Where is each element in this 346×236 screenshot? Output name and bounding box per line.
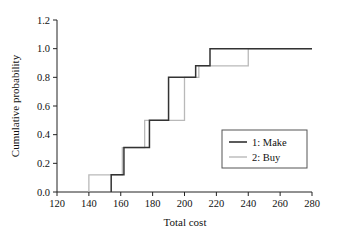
y-tick-label: 0.8 bbox=[37, 72, 50, 83]
y-tick-label: 0.6 bbox=[37, 101, 50, 112]
y-tick-label: 0.0 bbox=[37, 187, 50, 198]
legend-label-make: 1: Make bbox=[252, 137, 287, 148]
chart-legend: 1: Make 2: Buy bbox=[222, 130, 307, 168]
y-axis-title: Cumulative probability bbox=[9, 54, 21, 157]
chart-canvas: 120140160180200220240260280 0.00.20.40.6… bbox=[0, 0, 346, 236]
y-tick-label: 1.2 bbox=[37, 15, 50, 26]
y-tick-label: 1.0 bbox=[37, 43, 50, 54]
x-tick-label: 120 bbox=[49, 198, 65, 209]
axes-group: 120140160180200220240260280 0.00.20.40.6… bbox=[37, 15, 320, 209]
y-tick-label: 0.2 bbox=[37, 158, 50, 169]
x-tick-label: 160 bbox=[113, 198, 129, 209]
x-tick-label: 240 bbox=[240, 198, 256, 209]
series-line-make bbox=[111, 49, 312, 192]
y-axis-tick-labels: 0.00.20.40.60.81.01.2 bbox=[37, 15, 51, 198]
x-tick-label: 180 bbox=[145, 198, 161, 209]
x-axis-title: Total cost bbox=[164, 216, 207, 228]
x-tick-label: 280 bbox=[304, 198, 320, 209]
x-tick-label: 220 bbox=[209, 198, 225, 209]
x-tick-label: 140 bbox=[81, 198, 97, 209]
y-axis-ticks bbox=[53, 20, 57, 192]
x-tick-label: 200 bbox=[177, 198, 193, 209]
x-tick-label: 260 bbox=[272, 198, 288, 209]
y-tick-label: 0.4 bbox=[37, 129, 51, 140]
cdf-chart: 120140160180200220240260280 0.00.20.40.6… bbox=[0, 0, 346, 236]
legend-label-buy: 2: Buy bbox=[252, 152, 281, 163]
series-group bbox=[89, 49, 312, 192]
x-axis-tick-labels: 120140160180200220240260280 bbox=[49, 198, 320, 209]
x-axis-ticks bbox=[57, 192, 312, 196]
series-line-buy bbox=[89, 49, 312, 192]
